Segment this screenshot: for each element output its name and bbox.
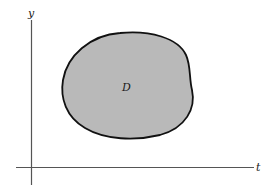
region-diagram: y t D	[0, 0, 277, 192]
t-axis-label: t	[256, 161, 261, 174]
y-axis-label: y	[27, 7, 35, 20]
region-label: D	[121, 81, 131, 94]
